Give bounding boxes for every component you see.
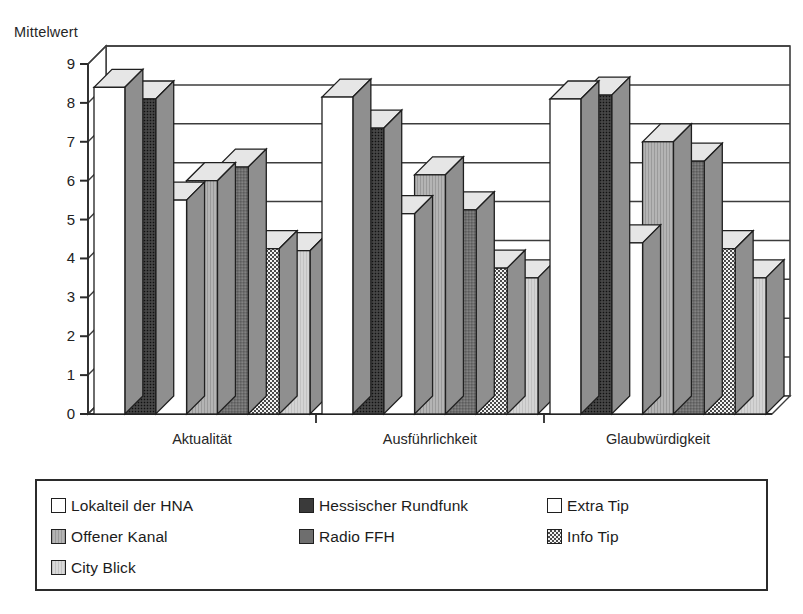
bar-side-face: [612, 77, 630, 414]
bar-side-face: [415, 196, 433, 414]
bar-side-face: [581, 81, 599, 414]
legend-label: Offener Kanal: [71, 528, 168, 546]
bar-side-face: [766, 260, 784, 414]
y-axis-tick-label: 4: [67, 249, 75, 266]
legend-swatch-offener-kanal-icon: [51, 529, 66, 544]
bar-lokalteil_hna-aktualitt: [94, 69, 143, 414]
y-axis-tick-label: 8: [67, 94, 75, 111]
bar-lokalteil_hna-ausfhrlichkeit: [322, 79, 371, 414]
legend-item-offener-kanal: Offener Kanal: [51, 528, 299, 546]
y-axis-tick-label: 2: [67, 327, 75, 344]
bar-side-face: [156, 81, 174, 414]
bar-side-face: [279, 231, 297, 414]
x-axis-category-label: Aktualität: [172, 431, 232, 447]
legend-item-lokalteil-hna: Lokalteil der HNA: [51, 497, 299, 515]
legend-swatch-hessischer-rundfunk-icon: [299, 498, 314, 513]
bar-side-face: [704, 143, 722, 414]
legend-swatch-radio-ffh-icon: [299, 529, 314, 544]
bar-front-face: [322, 97, 353, 414]
y-axis-tick-label: 0: [67, 405, 75, 422]
legend-row: Lokalteil der HNAHessischer RundfunkExtr…: [51, 490, 757, 521]
legend-label: Radio FFH: [319, 528, 395, 546]
legend-item-city-blick: City Blick: [51, 559, 299, 577]
bar-front-face: [94, 87, 125, 414]
bar-side-face: [445, 157, 463, 414]
bar-side-face: [353, 79, 371, 414]
legend-row: Offener KanalRadio FFHInfo Tip: [51, 521, 757, 552]
y-axis-tick-label: 3: [67, 288, 75, 305]
legend-item-extra-tip: Extra Tip: [547, 497, 747, 515]
legend-item-hessischer-rundfunk: Hessischer Rundfunk: [299, 497, 547, 515]
legend-swatch-extra-tip-icon: [547, 498, 562, 513]
x-axis-category-label: Glaubwürdigkeit: [606, 431, 710, 447]
chart-plot-area: 0123456789AktualitätAusführlichkeitGlaub…: [0, 0, 803, 460]
bar-side-face: [673, 124, 691, 414]
legend-label: Extra Tip: [567, 497, 629, 515]
legend-swatch-city-blick-icon: [51, 560, 66, 575]
bar-side-face: [217, 163, 235, 414]
x-axis-category-label: Ausführlichkeit: [383, 431, 477, 447]
legend-label: City Blick: [71, 559, 136, 577]
legend-label: Info Tip: [567, 528, 619, 546]
legend-swatch-info-tip-icon: [547, 529, 562, 544]
bar-side-face: [125, 69, 143, 414]
y-axis-tick-label: 1: [67, 366, 75, 383]
y-axis-tick-label: 6: [67, 172, 75, 189]
bar-side-face: [735, 231, 753, 414]
y-axis-tick-label: 9: [67, 55, 75, 72]
bar-side-face: [507, 250, 525, 414]
bar-side-face: [476, 192, 494, 414]
legend-item-radio-ffh: Radio FFH: [299, 528, 547, 546]
bar-side-face: [187, 182, 205, 414]
bar-side-face: [384, 110, 402, 414]
bar-front-face: [550, 99, 581, 414]
bar-lokalteil_hna-glaubwrdigkeit: [550, 81, 599, 414]
legend-label: Lokalteil der HNA: [71, 497, 193, 515]
chart-legend: Lokalteil der HNAHessischer RundfunkExtr…: [35, 479, 768, 591]
legend-label: Hessischer Rundfunk: [319, 497, 468, 515]
bar-side-face: [248, 149, 266, 414]
bar-chart-svg: 0123456789AktualitätAusführlichkeitGlaub…: [0, 0, 803, 460]
y-axis-tick-label: 5: [67, 211, 75, 228]
legend-swatch-lokalteil-hna-icon: [51, 498, 66, 513]
y-axis-tick-label: 7: [67, 133, 75, 150]
legend-item-info-tip: Info Tip: [547, 528, 747, 546]
bar-side-face: [643, 225, 661, 414]
legend-row: City Blick: [51, 552, 757, 583]
